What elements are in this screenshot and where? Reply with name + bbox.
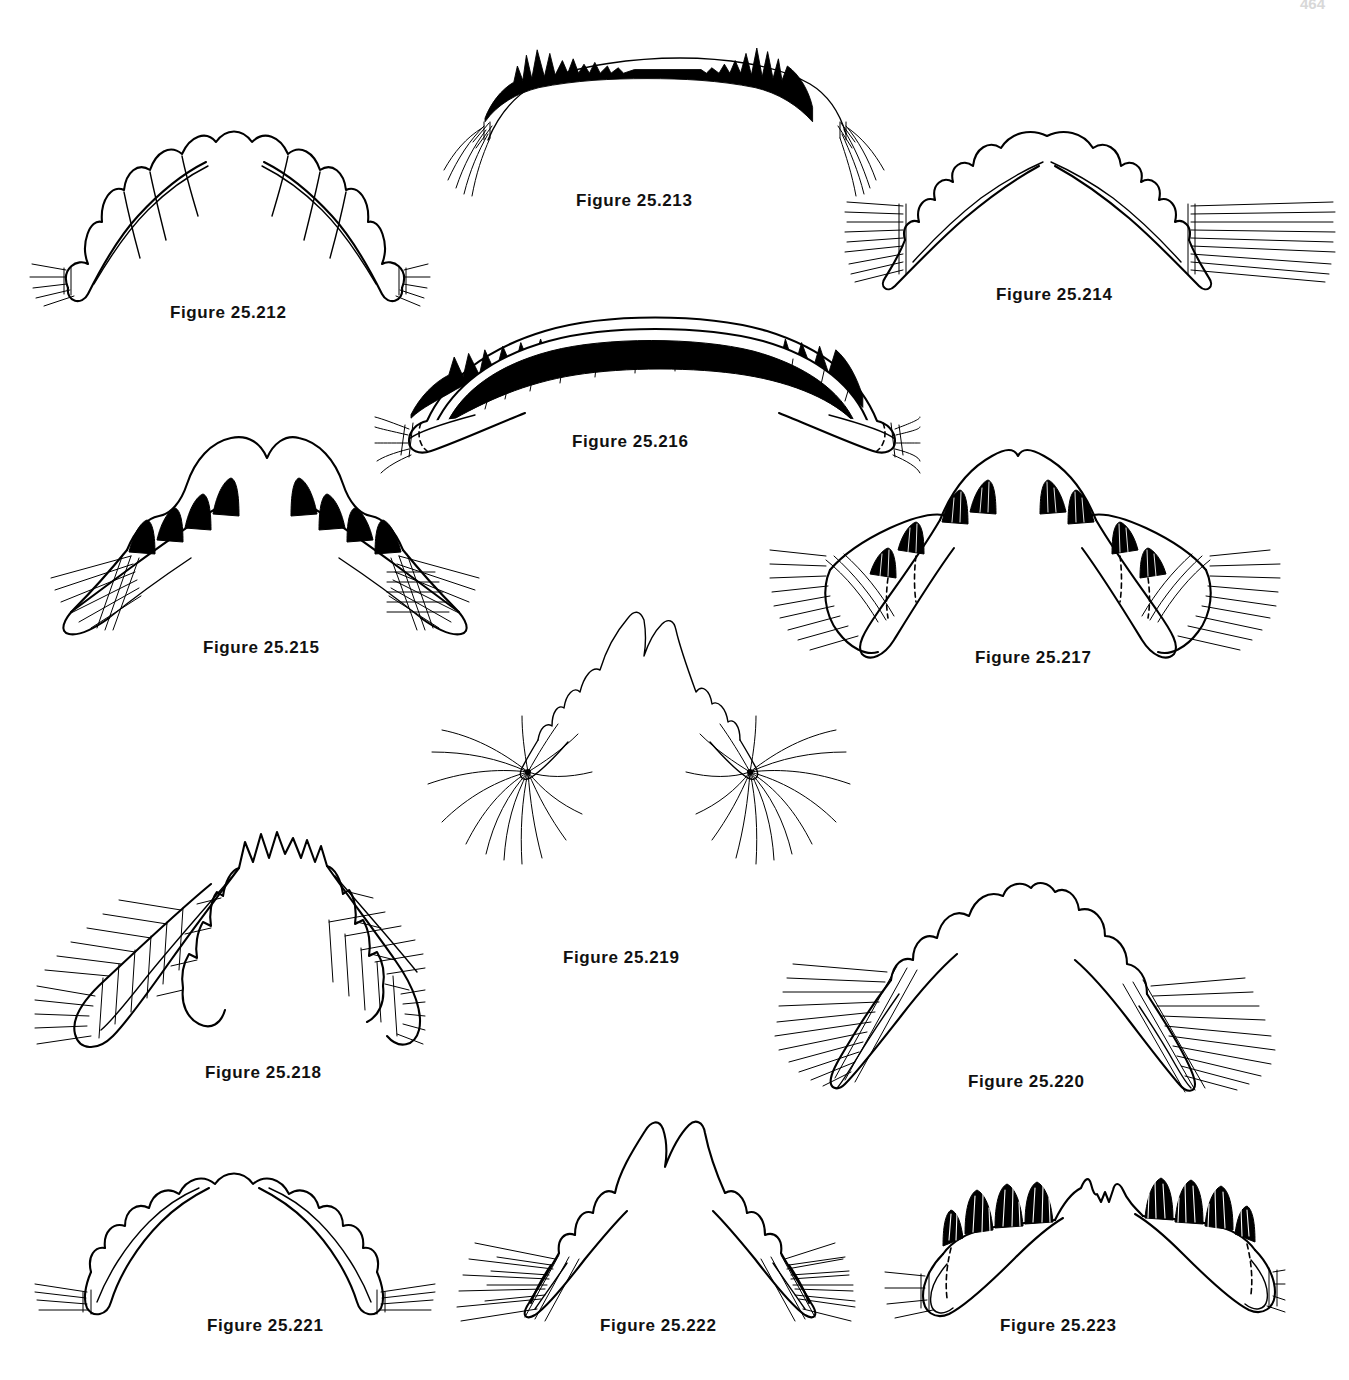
figure-25-213 xyxy=(440,30,840,200)
caption-25-221: Figure 25.221 xyxy=(207,1316,323,1336)
figure-25-214 xyxy=(845,122,1335,302)
page-number: 464 xyxy=(1300,0,1325,12)
figure-25-221 xyxy=(35,1142,435,1322)
caption-25-223: Figure 25.223 xyxy=(1000,1316,1116,1336)
caption-25-217: Figure 25.217 xyxy=(975,648,1091,668)
caption-25-212: Figure 25.212 xyxy=(170,303,286,323)
caption-25-219: Figure 25.219 xyxy=(563,948,679,968)
figure-25-223 xyxy=(885,1148,1285,1328)
figure-25-218 xyxy=(35,808,425,1058)
caption-25-220: Figure 25.220 xyxy=(968,1072,1084,1092)
caption-25-214: Figure 25.214 xyxy=(996,285,1112,305)
caption-25-222: Figure 25.222 xyxy=(600,1316,716,1336)
caption-25-213: Figure 25.213 xyxy=(576,191,692,211)
figure-plate: 464 Figure 25.212 xyxy=(0,0,1349,1380)
figure-25-222 xyxy=(455,1093,855,1323)
caption-25-216: Figure 25.216 xyxy=(572,432,688,452)
figure-25-212 xyxy=(30,88,430,308)
caption-25-215: Figure 25.215 xyxy=(203,638,319,658)
figure-25-220 xyxy=(775,868,1275,1093)
caption-25-218: Figure 25.218 xyxy=(205,1063,321,1083)
